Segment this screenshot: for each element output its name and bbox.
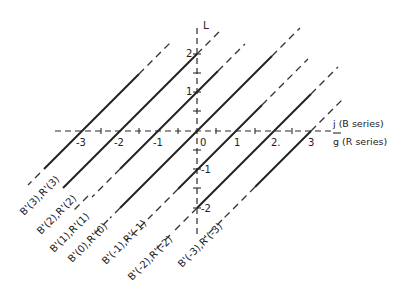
tick-label-x: 1: [234, 137, 240, 148]
line-intercept-minus-2: [63, 29, 222, 188]
line-label: B'(-2),R'(-2): [126, 234, 175, 283]
line-intercept-3: [224, 97, 345, 218]
vertical-axis-title: L: [203, 19, 209, 31]
tick-label-x: -3: [76, 137, 86, 148]
tick-label-x: 0: [200, 137, 206, 148]
tick-label-L: -2: [201, 203, 211, 214]
diagram: -3 -2 -1 0 1 2. 3 2 1 -1 -2 L j (B serie…: [0, 0, 405, 294]
tick-label-x: -1: [153, 137, 163, 148]
tick-label-x: 3: [308, 137, 314, 148]
tick-label-x: 2.: [271, 137, 281, 148]
tick-label-L: 2: [186, 48, 192, 59]
axis-title-j-b-series: j (B series): [332, 118, 384, 129]
tick-label-x: -2: [114, 137, 124, 148]
tick-label-L: 1: [186, 86, 192, 97]
line-intercept-1: [148, 59, 308, 219]
tick-label-L: -1: [201, 164, 211, 175]
line-intercept-minus-3: [28, 41, 172, 185]
axis-title-g-r-series: g (R series): [333, 136, 387, 147]
line-intercept-minus-1: [92, 44, 245, 197]
line-intercept-0: [110, 28, 300, 218]
line-label: B'(-3),R'(-3): [176, 221, 225, 270]
